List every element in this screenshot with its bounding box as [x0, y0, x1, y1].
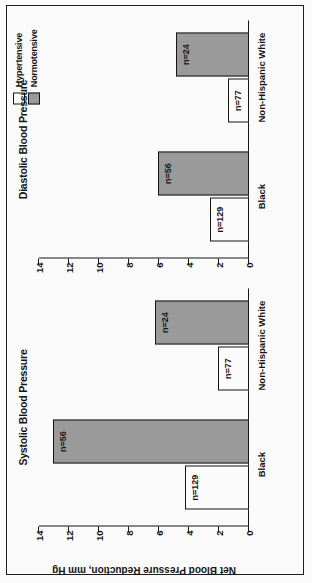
y-tick-label-systolic-12: 12	[64, 530, 75, 541]
bar-value-label: n=24	[181, 44, 191, 65]
bar-diastolic-non-hispanic-white-hypertensive[interactable]: n=77	[228, 78, 249, 122]
y-tick-label-diastolic-12: 12	[64, 262, 75, 273]
figure-root: Hypertensive Normotensive Systolic Blood…	[0, 0, 312, 583]
panel-title-diastolic: Diastolic Blood Pressure	[17, 20, 29, 258]
panel-systolic: Systolic Blood Pressure Net Blood Pressu…	[39, 288, 275, 526]
bar-value-label: n=129	[190, 474, 200, 500]
plot-area-systolic: Net Blood Pressure Reduction, mm Hg 0246…	[39, 288, 249, 526]
bar-value-label: n=129	[215, 206, 225, 232]
y-tick-label-systolic-10: 10	[94, 530, 105, 541]
bar-value-label: n=77	[223, 358, 233, 379]
y-tick-label-diastolic-6: 6	[154, 262, 165, 267]
chart-canvas: Hypertensive Normotensive Systolic Blood…	[5, 5, 307, 578]
y-tick-label-systolic-6: 6	[154, 530, 165, 535]
y-tick-label-diastolic-0: 0	[244, 262, 255, 267]
rotated-stage: Hypertensive Normotensive Systolic Blood…	[0, 0, 312, 583]
y-tick-label-diastolic-10: 10	[94, 262, 105, 273]
category-label-black: Black	[256, 451, 267, 476]
bar-value-label: n=56	[163, 163, 173, 184]
bar-value-label: n=77	[233, 90, 243, 111]
y-tick-label-systolic-4: 4	[184, 530, 195, 535]
category-label-non-hispanic-white: Non-Hispanic White	[256, 300, 267, 390]
bar-diastolic-black-hypertensive[interactable]: n=129	[210, 197, 249, 241]
y-tick-label-systolic-0: 0	[244, 530, 255, 535]
y-tick-label-diastolic-8: 8	[124, 262, 135, 267]
bar-value-label: n=56	[58, 431, 68, 452]
panel-title-systolic: Systolic Blood Pressure	[17, 288, 29, 526]
plot-area-diastolic: 02468101214 n=129n=56n=77n=24	[39, 20, 249, 258]
category-label-non-hispanic-white: Non-Hispanic White	[256, 32, 267, 122]
bar-systolic-black-normotensive[interactable]: n=56	[53, 419, 250, 463]
y-tick-label-diastolic-2: 2	[214, 262, 225, 267]
y-tick-label-systolic-14: 14	[34, 530, 45, 541]
bar-systolic-non-hispanic-white-hypertensive[interactable]: n=77	[218, 346, 250, 390]
y-tick-label-systolic-8: 8	[124, 530, 135, 535]
bar-diastolic-non-hispanic-white-normotensive[interactable]: n=24	[176, 32, 250, 76]
bar-systolic-black-hypertensive[interactable]: n=129	[185, 465, 250, 509]
y-tick-label-diastolic-4: 4	[184, 262, 195, 267]
panels-container: Systolic Blood Pressure Net Blood Pressu…	[5, 5, 307, 578]
bar-value-label: n=24	[160, 312, 170, 333]
category-label-black: Black	[256, 183, 267, 208]
y-axis-title-systolic: Net Blood Pressure Reduction, mm Hg	[52, 565, 236, 576]
bar-diastolic-black-normotensive[interactable]: n=56	[158, 151, 250, 195]
panel-diastolic: Diastolic Blood Pressure 02468101214 n=1…	[39, 20, 275, 258]
bar-systolic-non-hispanic-white-normotensive[interactable]: n=24	[155, 300, 250, 344]
y-tick-label-systolic-2: 2	[214, 530, 225, 535]
y-tick-label-diastolic-14: 14	[34, 262, 45, 273]
